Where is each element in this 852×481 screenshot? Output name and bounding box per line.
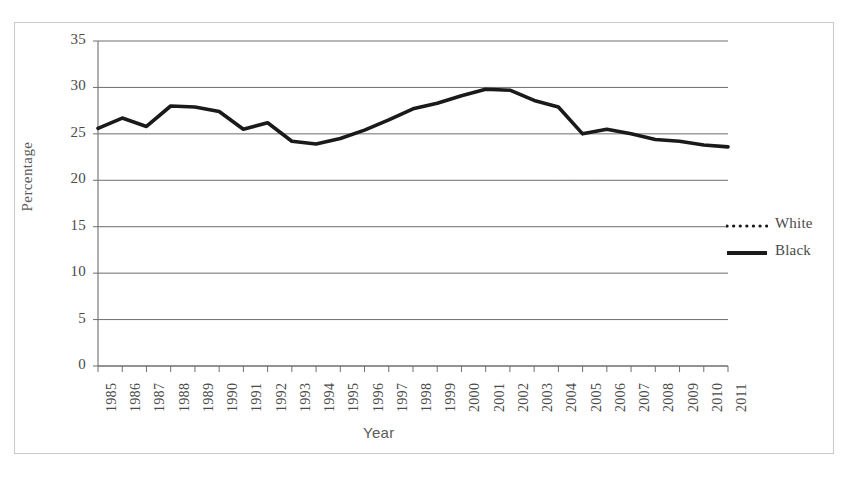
legend-label-white: White [775,215,813,232]
legend-swatch-white [726,218,768,230]
x-tick-label: 2000 [467,383,483,412]
x-tick-label: 2001 [492,383,508,412]
x-tick-label: 1987 [152,383,168,412]
x-tick-label: 1985 [104,383,120,412]
y-tick-label: 10 [56,263,86,280]
y-tick-label: 0 [56,356,86,373]
x-tick-label: 2011 [734,383,750,412]
x-tick-label: 1995 [346,383,362,412]
chart-figure: 05101520253035 1985198619871988198919901… [0,0,852,481]
x-tick-label: 1993 [298,383,314,412]
legend-item-white: White [726,210,836,237]
y-tick-label: 15 [56,217,86,234]
x-tick-label: 2010 [710,383,726,412]
x-tick-label: 1990 [225,383,241,412]
x-tick-label: 1986 [128,383,144,412]
x-tick-label: 1998 [419,383,435,412]
y-tick-label: 25 [56,124,86,141]
x-tick-label: 2004 [564,383,580,412]
x-tick-label: 1988 [177,383,193,412]
x-axis-title: Year [363,424,395,441]
y-tick-label: 5 [56,310,86,327]
y-axis-title: Percentage [19,127,36,227]
legend-label-black: Black [775,242,811,259]
x-tick-label: 1991 [249,383,265,412]
x-tick-label: 1992 [274,383,290,412]
x-tick-label: 2008 [661,383,677,412]
x-tick-label: 2003 [540,383,556,412]
x-tick-label: 2006 [613,383,629,412]
x-tick-label: 2007 [637,383,653,412]
x-tick-label: 2009 [686,383,702,412]
y-tick-label: 30 [56,77,86,94]
x-tick-label: 1989 [201,383,217,412]
x-tick-label: 1994 [322,383,338,412]
x-tick-label: 2005 [589,383,605,412]
x-tick-label: 1996 [371,383,387,412]
legend-item-black: Black [726,237,836,264]
y-tick-label: 20 [56,170,86,187]
x-tick-label: 2002 [516,383,532,412]
x-tick-label: 1997 [395,383,411,412]
legend-swatch-black [726,245,768,257]
y-tick-label: 35 [56,31,86,48]
chart-legend: White Black [726,210,836,264]
x-tick-label: 1999 [443,383,459,412]
